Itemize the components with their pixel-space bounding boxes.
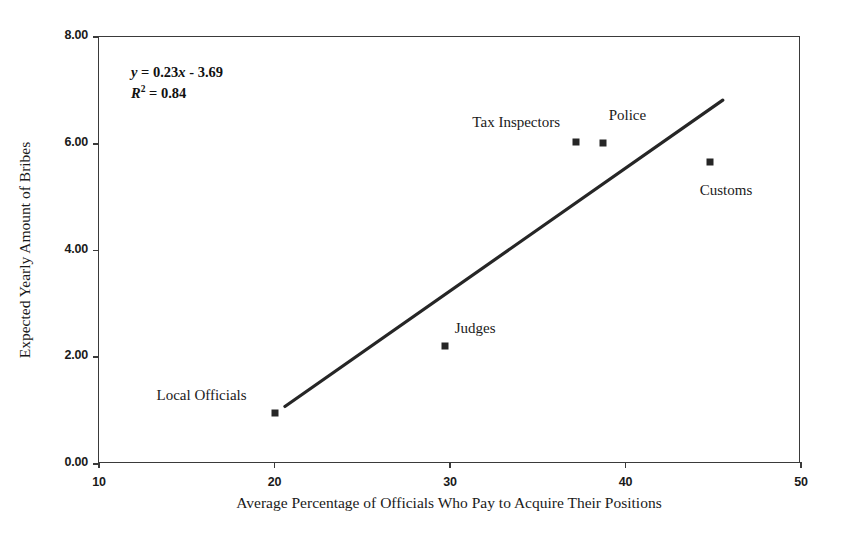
- r-value: = 0.84: [145, 85, 186, 101]
- r-squared-value: R2 = 0.84: [131, 83, 223, 104]
- data-point-marker: [599, 140, 606, 147]
- x-tick-label: 10: [92, 475, 106, 489]
- scatter-chart: Expected Yearly Amount of Bribes 0.002.0…: [0, 0, 848, 543]
- y-tick-label: 0.00: [64, 455, 88, 469]
- y-tick-mark: [93, 356, 99, 358]
- data-point-marker: [573, 139, 580, 146]
- x-tick-label: 20: [268, 475, 282, 489]
- x-tick-mark: [625, 462, 627, 468]
- y-tick-label: 2.00: [64, 348, 88, 362]
- y-tick-label: 8.00: [64, 28, 88, 42]
- data-point-label: Tax Inspectors: [472, 114, 560, 131]
- x-tick-label: 40: [619, 475, 633, 489]
- x-tick-mark: [449, 462, 451, 468]
- r-symbol: R: [131, 85, 141, 101]
- y-tick-label: 6.00: [64, 135, 88, 149]
- x-axis-title: Average Percentage of Officials Who Pay …: [98, 494, 800, 512]
- y-tick-mark: [93, 250, 99, 252]
- x-tick-mark: [98, 462, 100, 468]
- equation-body: = 0.23x - 3.69: [137, 64, 223, 80]
- y-axis-title: Expected Yearly Amount of Bribes: [14, 36, 36, 463]
- data-point-marker: [441, 343, 448, 350]
- x-tick-mark: [274, 462, 276, 468]
- x-tick-mark: [800, 462, 802, 468]
- data-point-label: Local Officials: [157, 387, 247, 404]
- data-point-label: Customs: [700, 182, 753, 199]
- y-tick-mark: [93, 36, 99, 38]
- data-point-marker: [706, 159, 713, 166]
- data-point-label: Judges: [455, 320, 496, 337]
- y-axis-title-text: Expected Yearly Amount of Bribes: [16, 141, 34, 358]
- regression-equation: y = 0.23x - 3.69: [131, 62, 223, 83]
- y-tick-mark: [93, 143, 99, 145]
- x-tick-label: 50: [794, 475, 808, 489]
- data-point-label: Police: [609, 107, 647, 124]
- y-tick-label: 4.00: [64, 242, 88, 256]
- regression-annotation: y = 0.23x - 3.69 R2 = 0.84: [131, 62, 223, 104]
- data-point-marker: [271, 409, 278, 416]
- x-tick-label: 30: [443, 475, 457, 489]
